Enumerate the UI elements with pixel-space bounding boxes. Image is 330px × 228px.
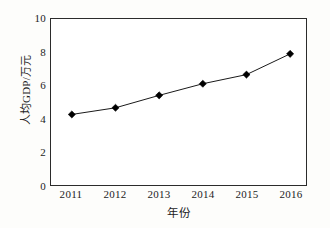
y-tick-label-2: 2 xyxy=(16,147,46,158)
y-tick-label-0: 0 xyxy=(16,181,46,192)
y-axis-title: 人均GDP/万元 xyxy=(17,35,33,145)
chart-figure: 10 8 6 4 2 0 2011 2012 2013 2014 2015 20… xyxy=(0,0,330,228)
data-point-2011 xyxy=(68,111,75,118)
data-point-2012 xyxy=(112,104,119,111)
x-tick-label-2011: 2011 xyxy=(48,189,94,200)
data-series-svg xyxy=(51,19,306,185)
data-point-2014 xyxy=(199,80,206,87)
series-line xyxy=(72,54,290,115)
data-point-2015 xyxy=(243,71,250,78)
x-axis-title: 年份 xyxy=(50,204,307,220)
x-tick-label-2014: 2014 xyxy=(180,189,226,200)
x-tick-label-2013: 2013 xyxy=(136,189,182,200)
data-point-2016 xyxy=(287,50,294,57)
y-tick-label-10: 10 xyxy=(16,13,46,24)
x-tick-label-2015: 2015 xyxy=(224,189,270,200)
plot-area xyxy=(50,18,307,186)
x-tick-label-2012: 2012 xyxy=(92,189,138,200)
series-markers xyxy=(68,50,293,118)
data-point-2013 xyxy=(156,92,163,99)
x-tick-label-2016: 2016 xyxy=(268,189,314,200)
